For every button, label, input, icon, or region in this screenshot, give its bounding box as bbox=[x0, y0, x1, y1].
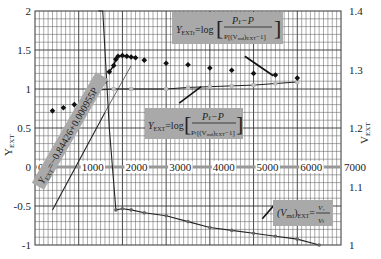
svg-text:1.1: 1.1 bbox=[349, 181, 363, 193]
svg-text:]: ] bbox=[236, 111, 243, 136]
svg-text:-0.5: -0.5 bbox=[14, 200, 32, 212]
svg-text:4000: 4000 bbox=[213, 161, 236, 173]
svg-text:1.2: 1.2 bbox=[349, 122, 363, 134]
svg-text:2: 2 bbox=[26, 5, 32, 17]
y-left-axis-label: YEXT bbox=[2, 134, 16, 156]
svg-text:5000: 5000 bbox=[257, 161, 280, 173]
svg-text:1: 1 bbox=[349, 239, 355, 251]
svg-text:Pₜ[(Vmd)EXT−1]: Pₜ[(Vmd)EXT−1] bbox=[191, 129, 235, 137]
svg-text:1000: 1000 bbox=[82, 161, 105, 173]
svg-text:3000: 3000 bbox=[169, 161, 192, 173]
svg-text:1: 1 bbox=[26, 83, 32, 95]
svg-text:YEXT=log: YEXT=log bbox=[148, 120, 184, 132]
svg-text:1.5: 1.5 bbox=[17, 44, 31, 56]
svg-text:V₁: V₁ bbox=[318, 204, 325, 212]
svg-text:1.3: 1.3 bbox=[349, 64, 363, 76]
chart: 0100020003000400050006000700021.510.50-0… bbox=[0, 0, 381, 259]
svg-text:Pₜ−P: Pₜ−P bbox=[201, 111, 224, 122]
svg-text:0.5: 0.5 bbox=[17, 122, 31, 134]
annotation-yext: YEXT=log [ Pₜ−P Pₜ[(Vmd)EXT−1] ] bbox=[145, 108, 243, 139]
svg-text:1.4: 1.4 bbox=[349, 5, 363, 17]
svg-text:-1: -1 bbox=[22, 239, 31, 251]
svg-text:]: ] bbox=[274, 15, 281, 40]
annotation-yextr: YEXTr=log [ Pₜ−P P[(Vmd)EXT−1] ] bbox=[172, 12, 283, 44]
svg-text:6000: 6000 bbox=[300, 161, 323, 173]
svg-text:[: [ bbox=[216, 15, 223, 40]
svg-text:P[(Vmd)EXT−1]: P[(Vmd)EXT−1] bbox=[224, 33, 266, 41]
svg-text:7000: 7000 bbox=[344, 161, 367, 173]
svg-text:Vₜ: Vₜ bbox=[318, 217, 325, 225]
svg-text:2000: 2000 bbox=[125, 161, 148, 173]
svg-text:(Vmd)EXT=: (Vmd)EXT= bbox=[277, 207, 315, 219]
svg-text:0: 0 bbox=[26, 161, 32, 173]
svg-text:Pₜ−P: Pₜ−P bbox=[231, 15, 254, 26]
annotation-vmd: (Vmd)EXT= V₁ Vₜ bbox=[273, 200, 333, 226]
